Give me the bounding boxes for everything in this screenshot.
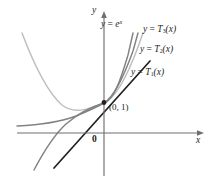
curve-label-t3-arg: (x) [166,24,177,34]
curve-label-t3-eq: = [147,24,157,34]
curve-label-t1: y = T1(x) [131,68,164,78]
origin-label: 0 [92,135,97,145]
x-axis-label: x [196,136,200,146]
curve-label-t3: y = T3(x) [143,25,176,35]
y-axis-label: y [92,6,96,16]
curve-label-t2-arg: (x) [163,44,174,54]
curve-label-t2: y = T2(x) [140,45,173,55]
curve-label-exp-arg: x [120,18,123,25]
curve-label-t2-eq: = [144,44,154,54]
curve-label-t1-eq: = [135,67,145,77]
curve-label-exp-eq: = [105,19,115,29]
point-label-0-1: (0, 1) [109,103,129,112]
curve-label-exp: y = ex [101,19,122,29]
curve-label-t1-arg: (x) [154,67,165,77]
y-axis-arrowhead [101,11,107,18]
taylor-polynomial-figure: y = ex y = T3(x) y = T2(x) y = T1(x) (0,… [0,0,211,179]
point-marker-0-1 [102,100,107,105]
